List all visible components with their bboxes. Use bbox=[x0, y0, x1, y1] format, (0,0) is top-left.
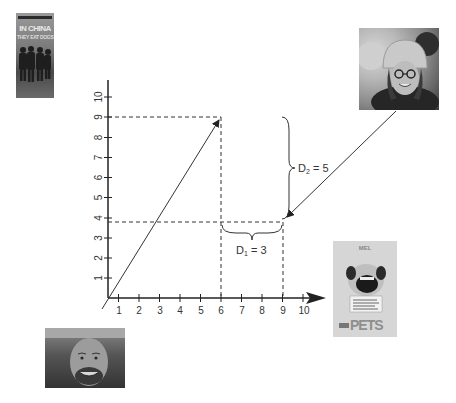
x-tick-label: 6 bbox=[218, 305, 224, 316]
d2-label: D2 = 5 bbox=[298, 162, 329, 175]
y-tick-label: 1 bbox=[93, 275, 104, 281]
x-tick-label: 3 bbox=[157, 305, 163, 316]
y-tick-label: 6 bbox=[93, 174, 104, 180]
coordinate-diagram: 1 2 3 4 5 6 7 8 9 10 1 2 3 4 5 6 7 8 9 1… bbox=[0, 0, 456, 403]
x-tick-label: 9 bbox=[280, 305, 286, 316]
x-tick-label: 8 bbox=[259, 305, 265, 316]
y-tick-label: 5 bbox=[93, 194, 104, 200]
vector-origin-to-target bbox=[102, 120, 219, 309]
y-tick-label: 2 bbox=[93, 255, 104, 261]
x-tick-label: 10 bbox=[298, 305, 310, 316]
brace-d1-icon bbox=[222, 225, 282, 240]
y-tick-label: 9 bbox=[93, 114, 104, 120]
brace-d2-icon bbox=[282, 117, 295, 219]
x-tick-label: 4 bbox=[177, 305, 183, 316]
y-tick-labels: 1 2 3 4 5 6 7 8 9 10 bbox=[93, 91, 104, 281]
x-tick-label: 5 bbox=[198, 305, 204, 316]
d1-label: D1 = 3 bbox=[236, 244, 267, 257]
y-tick-label: 7 bbox=[93, 154, 104, 160]
y-tick-label: 10 bbox=[93, 91, 104, 103]
x-tick-label: 1 bbox=[116, 305, 122, 316]
x-tick-label: 2 bbox=[136, 305, 142, 316]
y-tick-label: 4 bbox=[93, 215, 104, 221]
dashed-guides bbox=[108, 117, 283, 298]
x-tick-labels: 1 2 3 4 5 6 7 8 9 10 bbox=[116, 305, 310, 316]
y-tick-label: 8 bbox=[93, 134, 104, 140]
y-tick-label: 3 bbox=[93, 235, 104, 241]
x-tick-label: 7 bbox=[239, 305, 245, 316]
